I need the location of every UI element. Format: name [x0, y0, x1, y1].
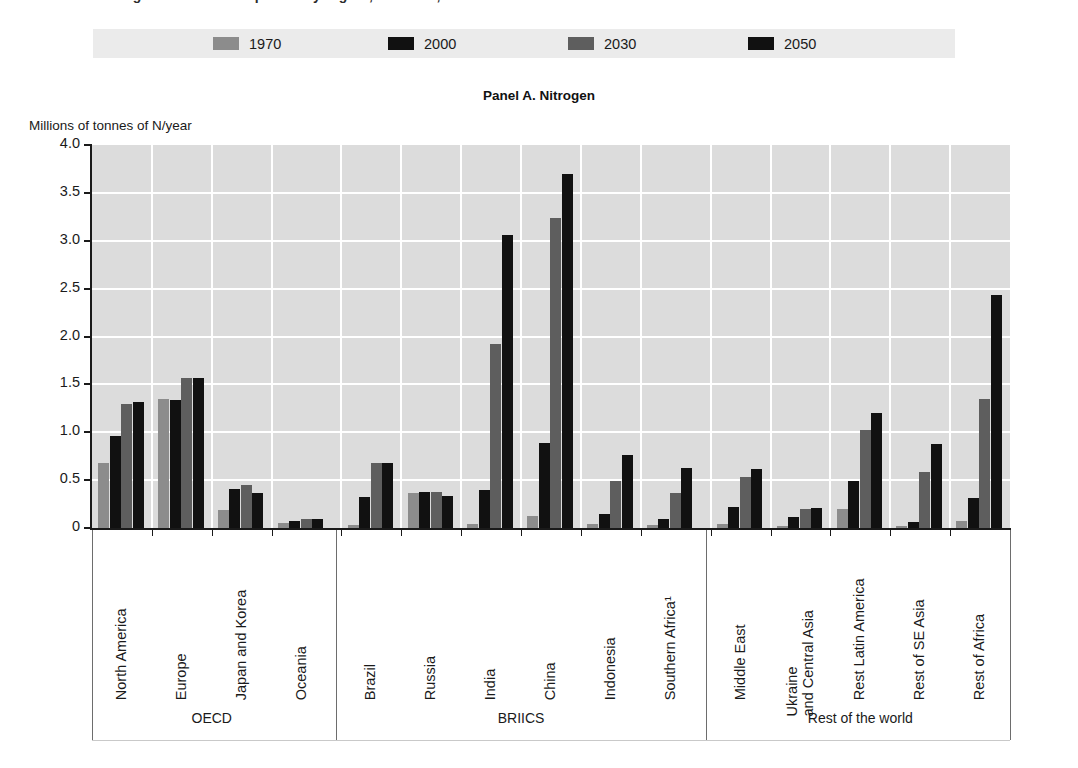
bar — [777, 526, 788, 528]
gridline-vertical — [460, 145, 462, 528]
x-axis-tick-mark — [950, 530, 951, 536]
bar — [193, 378, 204, 528]
bar — [121, 404, 132, 528]
y-axis-tick-mark — [84, 431, 91, 433]
gridline-vertical — [640, 145, 642, 528]
legend-label: 2030 — [604, 36, 636, 52]
x-axis-tick-mark — [461, 530, 462, 536]
y-axis-tick-mark — [84, 527, 91, 529]
category-label: China — [542, 662, 558, 700]
category-label: Russia — [422, 656, 438, 700]
bar — [562, 174, 573, 528]
gridline-vertical — [710, 145, 712, 528]
bar — [408, 493, 419, 528]
x-axis-line — [90, 528, 1011, 530]
category-label: Rest of Africa — [971, 614, 987, 700]
bar — [550, 218, 561, 528]
y-axis-tick-label: 2.0 — [30, 327, 80, 343]
gridline-horizontal — [92, 192, 1010, 194]
legend-label: 2050 — [784, 36, 816, 52]
bar — [431, 492, 442, 528]
y-axis-tick-label: 3.0 — [30, 231, 80, 247]
y-axis-tick-label: 1.5 — [30, 374, 80, 390]
x-axis-tick-mark — [341, 530, 342, 536]
bar — [218, 510, 229, 528]
y-axis-tick-mark — [84, 383, 91, 385]
bar — [979, 399, 990, 528]
bar — [419, 492, 430, 528]
bar — [278, 523, 289, 528]
bar — [681, 468, 692, 528]
bar — [289, 521, 300, 528]
legend-item-2050[interactable]: 2050 — [748, 36, 816, 52]
legend-item-2000[interactable]: 2000 — [388, 36, 456, 52]
gridline-vertical — [889, 145, 891, 528]
category-label: Middle East — [731, 624, 747, 700]
bar — [968, 498, 979, 528]
category-label-line: Europe — [173, 653, 189, 700]
legend-item-2030[interactable]: 2030 — [568, 36, 636, 52]
bar — [479, 490, 490, 528]
legend-swatch-icon — [388, 37, 414, 50]
y-axis-tick-label: 0.5 — [30, 470, 80, 486]
bar — [610, 481, 621, 528]
category-label-line: Southern Africa¹ — [661, 596, 677, 700]
category-label: India — [482, 669, 498, 700]
y-axis-tick-label: 4.0 — [30, 135, 80, 151]
bar — [788, 517, 799, 528]
x-axis-tick-mark — [581, 530, 582, 536]
category-label-line: and Central Asia — [800, 610, 816, 716]
x-axis-tick-mark — [890, 530, 891, 536]
bar — [599, 514, 610, 528]
bar — [622, 455, 633, 528]
bar — [359, 497, 370, 528]
bar — [740, 477, 751, 528]
chart-legend: 1970200020302050 — [93, 29, 955, 58]
legend-swatch-icon — [568, 37, 594, 50]
category-label: Europe — [173, 653, 189, 700]
bar — [110, 436, 121, 528]
y-axis-tick-mark — [84, 336, 91, 338]
y-axis-title: Millions of tonnes of N/year — [29, 118, 192, 133]
bar — [658, 519, 669, 528]
category-label-line: Middle East — [731, 624, 747, 700]
x-axis-tick-mark — [152, 530, 153, 536]
category-label-line: Rest of Africa — [971, 614, 987, 700]
category-label: Oceania — [292, 646, 308, 700]
bar — [229, 489, 240, 528]
figure-title-sliver: Figure: Nutrient surpluses by region, Ba… — [0, 0, 1078, 16]
x-axis-tick-mark — [212, 530, 213, 536]
legend-swatch-icon — [213, 37, 239, 50]
x-axis-tick-mark — [641, 530, 642, 536]
bar — [312, 519, 323, 528]
bar — [442, 496, 453, 528]
bar — [956, 521, 967, 528]
gridline-vertical — [400, 145, 402, 528]
bar — [348, 525, 359, 528]
bar — [467, 524, 478, 528]
legend-item-1970[interactable]: 1970 — [213, 36, 281, 52]
y-axis-tick-mark — [84, 479, 91, 481]
gridline-vertical — [340, 145, 342, 528]
category-label: Rest of SE Asia — [911, 599, 927, 700]
category-label: Rest Latin America — [851, 579, 867, 701]
gridline-vertical — [271, 145, 273, 528]
gridline-vertical — [949, 145, 951, 528]
bar — [587, 524, 598, 528]
legend-label: 1970 — [249, 36, 281, 52]
bar — [837, 509, 848, 528]
gridline-vertical — [211, 145, 213, 528]
bar — [371, 463, 382, 528]
y-axis-tick-label: 3.5 — [30, 183, 80, 199]
y-axis-tick-label: 0 — [30, 518, 80, 534]
group-label-oecd: OECD — [92, 710, 331, 726]
bar — [871, 413, 882, 528]
bar — [241, 485, 252, 528]
bar — [98, 463, 109, 528]
y-axis-tick-mark — [84, 192, 91, 194]
x-axis-tick-mark — [521, 530, 522, 536]
gridline-vertical — [580, 145, 582, 528]
group-separator — [706, 530, 707, 740]
group-separator — [1010, 530, 1011, 740]
group-band-bottom-rule — [92, 740, 1010, 741]
